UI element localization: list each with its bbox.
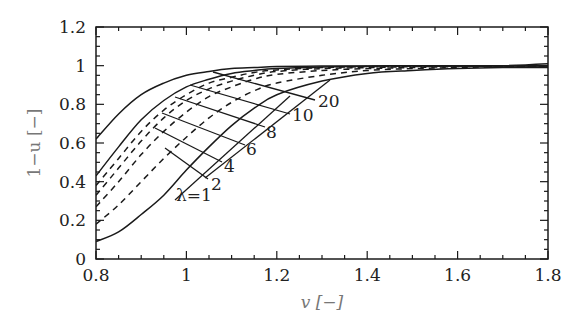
curve-label: 8 — [266, 122, 277, 142]
plot-frame — [96, 27, 548, 259]
curve-label: 4 — [224, 156, 235, 176]
y-tick-label: 0.6 — [59, 133, 86, 153]
x-tick-label: 1 — [181, 265, 192, 285]
curve-labels: 20108642λ=1 — [176, 91, 340, 205]
x-tick-label: 1.2 — [263, 265, 290, 285]
curve-label: 2 — [211, 174, 222, 194]
y-tick-label: 0.4 — [59, 172, 86, 192]
curve-label: 20 — [318, 91, 340, 111]
axis-tick-labels: 0.811.21.41.61.800.20.40.60.811.2 — [59, 17, 562, 285]
x-axis-label: v [−] — [301, 292, 344, 312]
axes-frame — [96, 27, 548, 259]
y-axis-label: 1−u [−] — [24, 109, 44, 178]
axis-ticks — [96, 27, 548, 259]
x-tick-label: 0.8 — [82, 265, 109, 285]
x-tick-label: 1.8 — [534, 265, 561, 285]
curve-leader-lines — [155, 72, 330, 200]
chart-canvas: 20108642λ=1 0.811.21.41.61.800.20.40.60.… — [0, 0, 582, 323]
leader-line — [165, 148, 208, 179]
y-tick-label: 1.2 — [59, 17, 86, 37]
curve-4 — [96, 66, 548, 207]
y-tick-label: 0 — [75, 249, 86, 269]
y-tick-label: 1 — [75, 56, 86, 76]
curve-label: λ=1 — [176, 185, 212, 205]
curve-label: 6 — [246, 139, 257, 159]
x-tick-label: 1.6 — [444, 265, 471, 285]
x-tick-label: 1.4 — [354, 265, 381, 285]
curve-label: 10 — [292, 105, 314, 125]
leader-line — [162, 113, 245, 145]
y-tick-label: 0.2 — [59, 210, 86, 230]
leader-line — [175, 97, 265, 127]
y-tick-label: 0.8 — [59, 94, 86, 114]
